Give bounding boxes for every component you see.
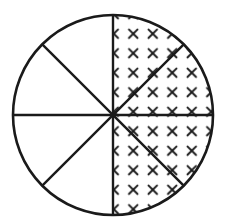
fraction-circle-diagram: [0, 0, 227, 223]
